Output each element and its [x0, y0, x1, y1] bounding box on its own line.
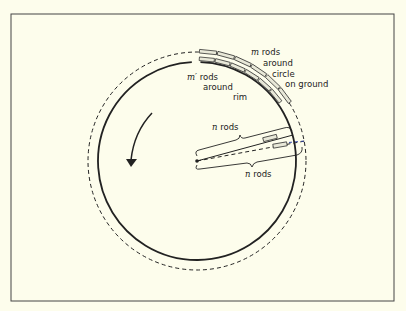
radial-rod-top — [263, 134, 278, 141]
rotation-arrow-shaft — [131, 113, 152, 160]
label-mprime-rods: m′ rods — [187, 72, 219, 82]
label-m-on-ground: on ground — [285, 79, 328, 89]
rotating-disk-diagram: m rods around circle on ground m′ rods a… — [0, 0, 406, 311]
ground-rod — [199, 49, 216, 54]
label-m-around: around — [263, 58, 293, 68]
brace-top — [196, 127, 292, 156]
label-m-circle: circle — [272, 69, 295, 79]
ground-rod — [217, 51, 234, 59]
label-mprime-rim: rim — [233, 92, 247, 102]
label-mprime-around: around — [203, 82, 233, 92]
label-n-rods-top: n rods — [212, 122, 239, 132]
radial-rod-bottom — [273, 142, 287, 148]
radius-ground-dashed — [197, 141, 305, 161]
radius-rim-solid — [197, 135, 293, 161]
label-m-rods: m rods — [251, 47, 281, 57]
rotation-arrow-head-icon — [126, 159, 137, 167]
label-n-rods-bottom: n rods — [245, 169, 272, 179]
